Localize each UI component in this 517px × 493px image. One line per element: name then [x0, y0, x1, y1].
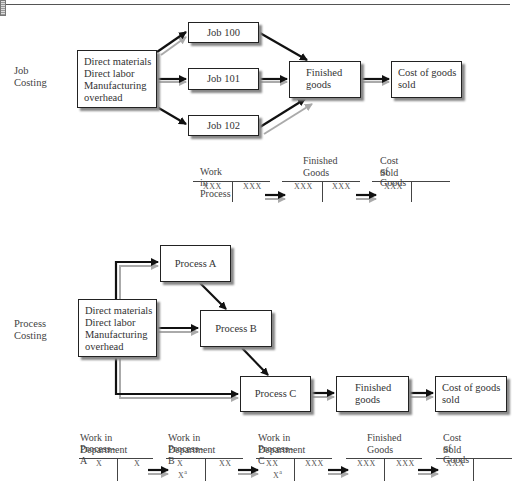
taccount-credit: XXX [332, 182, 351, 191]
finished-goods-line1: Finished [306, 67, 360, 79]
finished-goods-line2: goods [306, 79, 360, 91]
manufacturing-text: Manufacturing [85, 329, 156, 341]
finished-goods-line1: Finished [355, 382, 408, 394]
process-c-label: Process C [255, 388, 297, 400]
process-b-label: Process B [215, 323, 257, 335]
job-100-label: Job 100 [207, 27, 240, 39]
taccount-divider [384, 458, 385, 481]
job-102-label: Job 102 [207, 120, 240, 132]
process-c-box: Process C [240, 376, 311, 412]
taccount-credit: XXX [243, 182, 262, 191]
cogs-line2: sold [442, 394, 506, 406]
cogs-line1: Cost of goods [398, 67, 461, 79]
process-a-label: Process A [175, 258, 217, 270]
taccount-rule [79, 458, 153, 459]
process-costing-label-line2: Costing [14, 330, 47, 342]
direct-materials-text: Direct materials [85, 305, 156, 317]
taccount-debit: X [96, 459, 102, 468]
process-finished-goods-box: Finished goods [336, 376, 409, 412]
manufacturing-text: Manufacturing [84, 80, 156, 92]
job-cost-inputs-box: Direct materials Direct labor Manufactur… [77, 50, 157, 108]
taccount-title-line2: Sold [443, 444, 461, 455]
job-100-box: Job 100 [188, 22, 259, 43]
process-cogs-box: Cost of goods sold [435, 376, 507, 412]
taccount-divider [294, 458, 295, 481]
cogs-line2: sold [398, 79, 461, 91]
taccount-credit: XXX [305, 459, 324, 468]
taccount-debit: X [177, 459, 183, 468]
job-101-label: Job 101 [207, 73, 240, 85]
taccount-debit: XXX [203, 182, 222, 191]
taccount-title-line1: Finished [303, 155, 337, 166]
process-cost-inputs-box: Direct materials Direct labor Manufactur… [78, 299, 157, 357]
process-costing-label-line1: Process [14, 318, 47, 330]
taccount-divider [205, 458, 206, 481]
taccount-title-line2: Goods [303, 167, 329, 178]
process-b-box: Process B [200, 310, 272, 347]
taccount-divider [473, 458, 474, 481]
taccount-divider [411, 181, 412, 202]
taccount-divider [117, 458, 118, 481]
taccount-title-line2: Department B [168, 444, 215, 466]
job-taccount-arrows [265, 195, 376, 199]
taccount-debit: XXX [446, 459, 465, 468]
taccount-debit: XX [266, 459, 279, 468]
taccount-title-line2: Department A [80, 444, 127, 466]
job-finished-goods-box: Finished goods [289, 61, 361, 98]
taccount-debit-transfer: Xa [178, 469, 187, 480]
direct-labor-text: Direct labor [84, 68, 156, 80]
taccount-debit: XXX [384, 182, 403, 191]
job-102-box: Job 102 [188, 115, 259, 136]
process-costing-label: Process Costing [14, 318, 47, 342]
taccount-debit: XXX [294, 182, 313, 191]
direct-labor-text: Direct labor [85, 317, 156, 329]
taccount-credit: XXX [396, 459, 415, 468]
taccount-credit: X [134, 459, 140, 468]
overhead-text: overhead [85, 341, 156, 353]
taccount-credit: XX [219, 459, 232, 468]
process-taccount-arrows [148, 470, 438, 474]
cogs-line1: Cost of goods [442, 382, 506, 394]
direct-materials-text: Direct materials [84, 56, 156, 68]
taccount-divider [232, 181, 233, 202]
process-a-box: Process A [160, 245, 231, 282]
overhead-text: overhead [84, 92, 156, 104]
job-101-box: Job 101 [188, 68, 259, 90]
taccount-divider [322, 181, 323, 202]
taccount-title-line2: Sold [380, 167, 398, 178]
taccount-title-line1: Finished [367, 432, 401, 443]
taccount-debit: XXX [357, 459, 376, 468]
finished-goods-line2: goods [355, 394, 408, 406]
taccount-title-line2: Goods [367, 444, 393, 455]
job-cogs-box: Cost of goods sold [391, 61, 462, 98]
taccount-debit-transfer: Xa [273, 469, 282, 480]
